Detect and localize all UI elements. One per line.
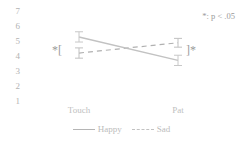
line-chart: 7 6 5 4 3 2 1 bbox=[0, 0, 243, 144]
chart-legend: Happy Sad bbox=[0, 125, 243, 134]
legend-label-sad: Sad bbox=[157, 125, 171, 134]
significance-note: *: p < .05 bbox=[202, 11, 235, 21]
legend-label-happy: Happy bbox=[98, 125, 122, 134]
series-line-happy bbox=[79, 37, 178, 60]
x-tick-label-pat: Pat bbox=[153, 106, 203, 115]
significance-bracket-right: ]* bbox=[186, 44, 196, 56]
x-tick-label-touch: Touch bbox=[54, 106, 104, 115]
plot-area bbox=[0, 0, 243, 144]
legend-swatch-happy-icon bbox=[73, 129, 95, 130]
legend-swatch-sad-icon bbox=[132, 129, 154, 130]
legend-item-happy: Happy bbox=[73, 125, 122, 134]
error-bar-happy-pat bbox=[174, 38, 182, 47]
significance-bracket-left: *[ bbox=[52, 44, 62, 56]
legend-item-sad: Sad bbox=[132, 125, 171, 134]
